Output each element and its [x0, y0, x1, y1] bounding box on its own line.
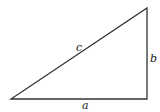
- vertical-leg-label: b: [150, 52, 157, 65]
- horizontal-leg-label: a: [82, 99, 89, 112]
- right-triangle-diagram: c b a: [0, 0, 160, 112]
- hypotenuse-label: c: [76, 41, 82, 54]
